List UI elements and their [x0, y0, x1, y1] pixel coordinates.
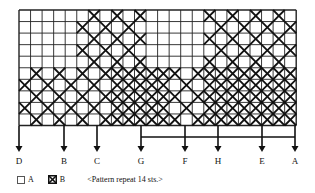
legend-item-b: B — [48, 175, 65, 184]
marker-label-d: D — [16, 156, 23, 166]
legend-a-label: A — [28, 175, 34, 184]
marker-label-b: B — [61, 156, 67, 166]
knitting-chart — [0, 0, 315, 170]
marker-label-c: C — [94, 156, 100, 166]
marker-label-a: A — [292, 156, 299, 166]
pattern-repeat-note: <Pattern repeat 14 sts.> — [87, 175, 163, 184]
marker-label-f: F — [182, 156, 187, 166]
crossed-square-icon — [48, 175, 57, 184]
marker-label-e: E — [259, 156, 265, 166]
legend-item-a: A — [17, 175, 34, 184]
marker-label-h: H — [215, 156, 222, 166]
empty-square-icon — [17, 176, 25, 184]
legend-b-label: B — [60, 175, 65, 184]
legend: A B <Pattern repeat 14 sts.> — [17, 175, 163, 184]
marker-label-g: G — [138, 156, 145, 166]
